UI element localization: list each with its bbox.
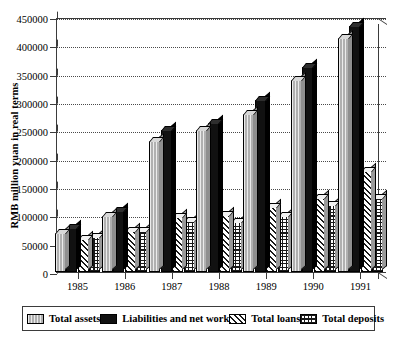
legend-item-total-assets[interactable]: Total assets xyxy=(27,313,100,324)
x-axis-tick xyxy=(78,272,79,279)
y-axis-label: 200000 xyxy=(17,155,49,166)
legend-swatch-grid-crosshatch-icon xyxy=(300,314,317,324)
bar-side-face xyxy=(159,133,164,270)
bar-side-face xyxy=(265,92,270,270)
legend-item-total-loans[interactable]: Total loans xyxy=(229,313,300,324)
legend-label: Total deposits xyxy=(322,313,384,324)
x-axis-label-1986: 1986 xyxy=(114,281,135,292)
plot-area: 0500001000001500002000002500003000003500… xyxy=(56,18,386,273)
y-axis-label: 350000 xyxy=(17,70,49,81)
bar-side-face xyxy=(301,72,306,270)
bar-side-face xyxy=(312,59,317,270)
bar-total-assets-1988[interactable] xyxy=(196,130,207,272)
bar-group-1990 xyxy=(291,19,337,272)
bar-group-1991 xyxy=(338,19,384,272)
bar-total-assets-1989[interactable] xyxy=(243,114,254,272)
y-axis-label: 100000 xyxy=(17,212,49,223)
bar-total-assets-1986[interactable] xyxy=(102,216,113,272)
x-axis-label-1988: 1988 xyxy=(209,281,230,292)
x-axis-label-1985: 1985 xyxy=(67,281,88,292)
legend-swatch-solid-black-icon xyxy=(100,314,117,324)
y-axis-label: 450000 xyxy=(17,14,49,25)
bar-side-face xyxy=(371,162,376,270)
legend-item-liabilities-and-net-work[interactable]: Liabilities and net work xyxy=(100,313,229,324)
x-axis-label-1990: 1990 xyxy=(303,281,324,292)
bar-side-face xyxy=(359,18,364,270)
bar-side-face xyxy=(348,30,353,270)
bar-side-face xyxy=(112,208,117,270)
x-axis-label-1991: 1991 xyxy=(350,281,371,292)
y-axis-label: 250000 xyxy=(17,127,49,138)
x-axis-tick xyxy=(360,272,361,279)
bar-side-face xyxy=(229,207,234,270)
bar-side-face xyxy=(123,203,128,270)
bar-group-1988 xyxy=(196,19,242,272)
bar-total-assets-1987[interactable] xyxy=(149,141,160,272)
bar-total-assets-1990[interactable] xyxy=(291,80,302,272)
y-axis-label: 400000 xyxy=(17,42,49,53)
legend-label: Total assets xyxy=(49,313,100,324)
x-axis-label-1987: 1987 xyxy=(161,281,182,292)
legend-item-total-deposits[interactable]: Total deposits xyxy=(300,313,384,324)
bar-total-assets-1991[interactable] xyxy=(338,38,349,272)
legend-swatch-diagonal-hatch-icon xyxy=(229,314,246,324)
y-axis-label: 150000 xyxy=(17,184,49,195)
bar-side-face xyxy=(171,122,176,270)
y-axis-label: 0 xyxy=(43,269,48,280)
legend-label: Total loans xyxy=(251,313,300,324)
y-axis-label: 50000 xyxy=(22,240,48,251)
x-axis-tick xyxy=(125,272,126,279)
bar-group-1989 xyxy=(243,19,289,272)
chart-legend: Total assetsLiabilities and net workTota… xyxy=(22,306,375,331)
bar-chart-figure: RMB million yuan in real terms 050000100… xyxy=(0,0,397,341)
x-axis-tick xyxy=(313,272,314,279)
legend-label: Liabilities and net work xyxy=(122,313,229,324)
bar-side-face xyxy=(324,190,329,270)
bar-group-1987 xyxy=(149,19,195,272)
bar-side-face xyxy=(382,190,387,270)
bar-side-face xyxy=(218,115,223,270)
x-axis-tick xyxy=(219,272,220,279)
x-axis-tick xyxy=(266,272,267,279)
bar-side-face xyxy=(276,199,281,270)
x-axis-tick xyxy=(172,272,173,279)
bar-group-1985 xyxy=(55,19,101,272)
legend-swatch-light-gray-vertical-lines-icon xyxy=(27,314,44,324)
x-axis-label-1989: 1989 xyxy=(256,281,277,292)
plot-bottom-depth-edge xyxy=(378,272,387,286)
bar-side-face xyxy=(182,209,187,270)
bar-side-face xyxy=(206,122,211,270)
y-axis-label: 300000 xyxy=(17,99,49,110)
bar-group-1986 xyxy=(102,19,148,272)
bar-total-assets-1985[interactable] xyxy=(55,233,66,272)
y-axis-tick-connector xyxy=(57,5,65,19)
y-axis-tick xyxy=(50,274,57,275)
bar-side-face xyxy=(253,106,258,270)
